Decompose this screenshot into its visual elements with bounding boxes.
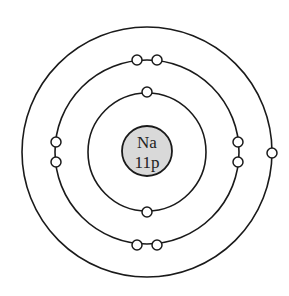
electron bbox=[233, 137, 243, 147]
electron bbox=[132, 240, 142, 250]
electron bbox=[152, 55, 162, 65]
electron bbox=[142, 87, 152, 97]
electron bbox=[132, 55, 142, 65]
electron bbox=[152, 240, 162, 250]
bohr-diagram: Na 11p bbox=[0, 0, 289, 296]
proton-count: 11p bbox=[135, 153, 160, 172]
electron bbox=[233, 157, 243, 167]
shell-3-electrons bbox=[267, 148, 277, 158]
electron bbox=[142, 207, 152, 217]
nucleus: Na 11p bbox=[122, 126, 172, 176]
element-symbol: Na bbox=[137, 133, 157, 152]
valence-electron bbox=[267, 148, 277, 158]
electron bbox=[51, 157, 61, 167]
electron bbox=[51, 137, 61, 147]
